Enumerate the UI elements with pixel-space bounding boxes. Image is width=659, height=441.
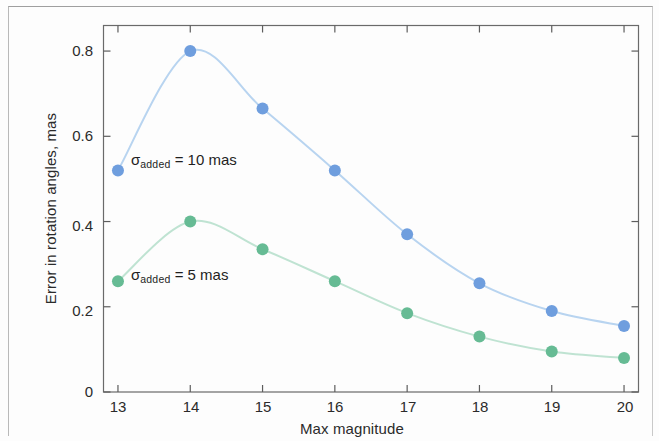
annotation-sigma-10mas: σadded = 10 mas	[131, 151, 237, 168]
data-point	[112, 275, 124, 287]
tick-marks	[104, 26, 639, 393]
data-point	[257, 103, 269, 115]
annotation-sigma-symbol-green: σ	[131, 266, 140, 283]
y-axis-title: Error in rotation angles, mas	[42, 89, 59, 329]
data-point	[546, 346, 558, 358]
data-point	[473, 277, 485, 289]
annotation-sigma-subscript-blue: added	[140, 158, 170, 170]
annotation-sigma-value-green: = 5 mas	[170, 266, 228, 283]
data-point	[184, 216, 196, 228]
axis-frame	[104, 26, 639, 393]
ytick-label-0: 0	[55, 383, 93, 400]
series-layer	[112, 45, 630, 364]
xtick-label-15: 15	[253, 398, 273, 415]
ytick-label-0_8: 0.8	[45, 42, 93, 59]
xtick-label-18: 18	[470, 398, 490, 415]
xtick-label-19: 19	[542, 398, 562, 415]
series-line-2	[118, 221, 624, 358]
data-point	[329, 164, 341, 176]
data-point	[401, 228, 413, 240]
series-line-1	[118, 50, 624, 326]
data-point	[401, 307, 413, 319]
data-point	[546, 305, 558, 317]
xtick-label-14: 14	[181, 398, 201, 415]
annotation-sigma-5mas: σadded = 5 mas	[131, 266, 228, 283]
xtick-label-20: 20	[615, 398, 635, 415]
chart-plot-area	[0, 0, 659, 441]
annotation-sigma-subscript-green: added	[140, 273, 170, 285]
data-point	[112, 164, 124, 176]
figure-container: 0 0.2 0.4 0.6 0.8 13 14 15 16 17 18 19 2…	[0, 0, 659, 441]
xtick-label-16: 16	[325, 398, 345, 415]
xtick-label-13: 13	[108, 398, 128, 415]
data-point	[473, 331, 485, 343]
xtick-label-17: 17	[398, 398, 418, 415]
data-point	[257, 243, 269, 255]
data-point	[329, 275, 341, 287]
data-point	[184, 45, 196, 57]
x-axis-title: Max magnitude	[300, 420, 404, 437]
annotation-sigma-value-blue: = 10 mas	[170, 151, 236, 168]
annotation-sigma-symbol-blue: σ	[131, 151, 140, 168]
data-point	[618, 352, 630, 364]
data-point	[618, 320, 630, 332]
